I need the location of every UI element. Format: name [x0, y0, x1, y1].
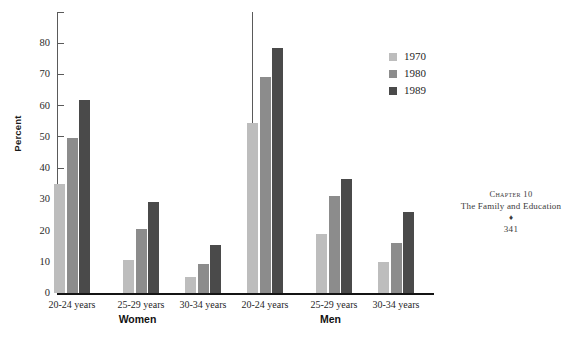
bar	[329, 196, 340, 293]
bar	[391, 243, 402, 293]
legend-item: 1989	[389, 82, 426, 99]
legend-swatch-icon	[389, 70, 397, 78]
bar	[54, 184, 65, 293]
footer-page-number: 341	[455, 223, 567, 235]
bar	[260, 77, 271, 293]
y-axis-label: Percent	[12, 104, 23, 164]
bar	[185, 277, 196, 293]
bar	[403, 212, 414, 293]
y-tick-label: 80	[24, 38, 50, 48]
legend-label: 1989	[404, 85, 426, 96]
bar	[378, 262, 389, 293]
x-group-label: Men	[281, 314, 381, 325]
x-category-label: 30-34 years	[356, 299, 436, 310]
bar	[341, 179, 352, 293]
y-tick-label: 20	[24, 226, 50, 236]
bar	[67, 138, 78, 293]
bar	[136, 229, 147, 293]
bar	[247, 123, 258, 293]
x-category-label: 20-24 years	[32, 299, 112, 310]
diamond-ornament-icon: ♦	[455, 212, 567, 223]
legend-item: 1970	[389, 48, 426, 65]
legend-item: 1980	[389, 65, 426, 82]
y-tick-label: 0	[24, 288, 50, 298]
y-tick-label: 10	[24, 257, 50, 267]
legend-swatch-icon	[389, 87, 397, 95]
y-tick-label: 60	[24, 101, 50, 111]
bar	[148, 202, 159, 293]
footer-chapter-label: Chapter 10	[455, 188, 567, 200]
legend-label: 1970	[404, 51, 426, 62]
bar	[198, 264, 209, 293]
bar	[79, 100, 90, 293]
y-tick-label: 30	[24, 194, 50, 204]
x-axis-line	[57, 293, 434, 295]
legend-label: 1980	[404, 68, 426, 79]
plot-area	[58, 12, 434, 293]
bar	[316, 234, 327, 293]
chart-legend: 197019801989	[389, 48, 426, 99]
bar	[123, 260, 134, 293]
y-tick-label: 70	[24, 69, 50, 79]
y-tick-label: 40	[24, 163, 50, 173]
page-footer: Chapter 10 The Family and Education ♦ 34…	[455, 188, 567, 235]
footer-chapter-title: The Family and Education	[455, 200, 567, 212]
x-group-label: Women	[88, 314, 188, 325]
x-category-label: 20-24 years	[225, 299, 305, 310]
bar	[210, 245, 221, 293]
legend-swatch-icon	[389, 53, 397, 61]
y-tick-label: 50	[24, 132, 50, 142]
bar-chart-figure: Percent 01020304050607080 20-24 years25-…	[0, 0, 567, 339]
bar	[272, 48, 283, 293]
